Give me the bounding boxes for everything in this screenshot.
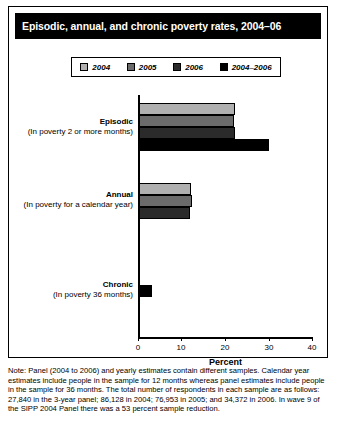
x-tick-0 (138, 337, 139, 341)
chart-title-bar: Episodic, annual, and chronic poverty ra… (15, 13, 321, 39)
legend-swatch-2004-2006 (220, 63, 228, 71)
x-tick-10 (181, 337, 182, 341)
bar-annual-2004 (139, 183, 191, 195)
bar-episodic-2005 (139, 115, 234, 127)
legend-label-2004: 2004 (92, 63, 110, 72)
x-tick-30 (269, 337, 270, 341)
legend-swatch-2006 (173, 63, 181, 71)
legend-label-2006: 2006 (185, 63, 203, 72)
chart-legend: 2004 2005 2006 2004–2006 (71, 57, 281, 77)
legend-label-2005: 2005 (139, 63, 157, 72)
bar-episodic-2004-2006 (139, 139, 269, 151)
category-label-episodic-line2: (In poverty 2 or more months) (13, 127, 133, 137)
legend-item-2005: 2005 (127, 63, 157, 72)
bar-episodic-2006 (139, 127, 235, 139)
x-tick-20 (225, 337, 226, 341)
legend-swatch-2004 (80, 63, 88, 71)
category-label-episodic: Episodic (In poverty 2 or more months) (13, 117, 133, 137)
chart-note: Note: Panel (2004 to 2006) and yearly es… (8, 366, 326, 414)
x-tick-label-10: 10 (169, 343, 193, 352)
chart-figure: Episodic, annual, and chronic poverty ra… (8, 6, 328, 358)
category-label-chronic-line1: Chronic (13, 280, 133, 290)
category-label-chronic-line2: (In poverty 36 months) (13, 290, 133, 300)
page-title: Episodic, annual, and chronic poverty ra… (15, 20, 281, 32)
plot-area: 0 10 20 30 40 Episodic (In poverty 2 or … (9, 95, 329, 343)
bar-annual-2006 (139, 207, 190, 219)
bar-chronic-2004-2006 (139, 285, 152, 297)
legend-label-2004-2006: 2004–2006 (232, 63, 272, 72)
legend-swatch-2005 (127, 63, 135, 71)
legend-item-2006: 2006 (173, 63, 203, 72)
legend-item-2004-2006: 2004–2006 (220, 63, 272, 72)
x-tick-label-20: 20 (213, 343, 237, 352)
category-label-chronic: Chronic (In poverty 36 months) (13, 280, 133, 300)
legend-item-2004: 2004 (80, 63, 110, 72)
x-tick-40 (312, 337, 313, 341)
category-label-annual-line1: Annual (13, 190, 133, 200)
bar-episodic-2004 (139, 103, 235, 115)
x-tick-label-30: 30 (257, 343, 281, 352)
x-tick-label-0: 0 (126, 343, 150, 352)
category-label-episodic-line1: Episodic (13, 117, 133, 127)
category-label-annual: Annual (In poverty for a calendar year) (13, 190, 133, 210)
bar-annual-2005 (139, 195, 192, 207)
category-label-annual-line2: (In poverty for a calendar year) (13, 200, 133, 210)
x-tick-label-40: 40 (300, 343, 324, 352)
